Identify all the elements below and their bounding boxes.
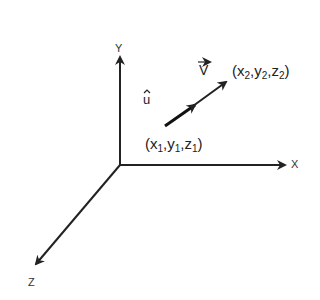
unit-vector-u [165, 105, 195, 126]
x-axis-label: X [291, 158, 298, 170]
vector-v [193, 82, 226, 106]
z-axis [36, 165, 120, 264]
start-point-label: (x1,y1,z1) [145, 135, 203, 154]
vector-label: V [199, 62, 208, 78]
unit-vector-label: u [143, 92, 150, 107]
end-point-label: (x2,y2,z2) [232, 62, 290, 81]
z-axis-label: Z [28, 276, 35, 288]
y-axis-label: Y [115, 42, 122, 54]
